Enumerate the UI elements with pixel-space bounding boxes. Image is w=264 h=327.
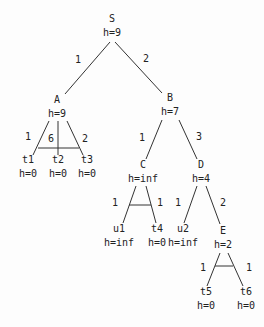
node-label-B: B: [167, 93, 173, 103]
edge-B-D: [179, 120, 197, 159]
node-label-t4: t4: [151, 224, 163, 234]
node-label-E: E: [220, 226, 226, 236]
edge-cost-C-u1: 1: [112, 198, 118, 208]
node-heuristic-t3: h=0: [78, 169, 96, 179]
edge-A-t1: [33, 121, 49, 155]
and-or-tree-diagram: 1216213111211Sh=9Ah=9Bh=7t1h=0t2h=0t3h=0…: [0, 0, 264, 327]
tree-edges: [0, 0, 264, 327]
edge-cost-A-t1: 1: [25, 132, 31, 142]
node-label-u1: u1: [113, 224, 125, 234]
node-label-C: C: [140, 160, 146, 170]
node-heuristic-B: h=7: [161, 107, 179, 117]
node-heuristic-t4: h=0: [148, 238, 166, 248]
node-heuristic-u1: h=inf: [104, 238, 134, 248]
edge-cost-A-t3: 2: [82, 134, 88, 144]
node-heuristic-t2: h=0: [49, 169, 67, 179]
edge-cost-S-B: 2: [143, 54, 149, 64]
node-label-t3: t3: [81, 155, 93, 165]
node-label-t2: t2: [52, 155, 64, 165]
edge-D-u2: [184, 186, 197, 223]
edge-S-B: [115, 42, 162, 93]
edge-A-t3: [67, 121, 83, 155]
edge-cost-E-t6: 1: [246, 263, 252, 273]
edge-D-E: [206, 186, 220, 224]
node-label-S: S: [109, 14, 115, 24]
node-heuristic-E: h=2: [214, 240, 232, 250]
node-heuristic-u2: h=inf: [168, 238, 198, 248]
edge-cost-C-t4: 1: [157, 198, 163, 208]
node-label-D: D: [198, 160, 204, 170]
edge-cost-B-C: 1: [139, 133, 145, 143]
edge-cost-S-A: 1: [75, 55, 81, 65]
node-heuristic-A: h=9: [48, 109, 66, 119]
node-label-t5: t5: [200, 287, 212, 297]
edge-cost-B-D: 3: [196, 132, 202, 142]
node-heuristic-D: h=4: [192, 174, 210, 184]
node-heuristic-t5: h=0: [197, 301, 215, 311]
node-label-u2: u2: [177, 224, 189, 234]
node-heuristic-S: h=9: [103, 28, 121, 38]
edge-cost-D-u2: 1: [175, 198, 181, 208]
edge-cost-D-E: 2: [220, 198, 226, 208]
node-label-t6: t6: [240, 287, 252, 297]
node-heuristic-C: h=inf: [128, 174, 158, 184]
node-label-t1: t1: [22, 155, 34, 165]
node-heuristic-t6: h=0: [237, 301, 255, 311]
edge-B-C: [146, 120, 162, 159]
node-heuristic-t1: h=0: [19, 169, 37, 179]
node-label-A: A: [54, 95, 60, 105]
edge-cost-E-t5: 1: [200, 263, 206, 273]
edge-cost-A-t2: 6: [48, 134, 54, 144]
edge-E-t5: [207, 253, 220, 286]
edge-E-t6: [228, 253, 243, 286]
edge-S-A: [65, 42, 110, 94]
